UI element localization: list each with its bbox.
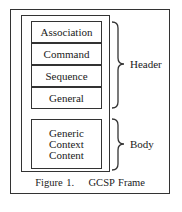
header-brace-icon [112,22,124,108]
header-label: Header [130,58,162,70]
figure-caption: Figure 1. GCSP Frame [10,177,170,188]
body-label: Body [130,138,154,150]
body-brace-icon [112,119,124,170]
